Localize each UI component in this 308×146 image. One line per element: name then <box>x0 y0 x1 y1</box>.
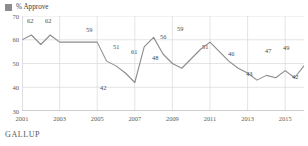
data-point-label: 51 <box>202 43 208 50</box>
x-axis-tick: 2013 <box>235 115 261 122</box>
gridlines <box>22 16 304 111</box>
plot-area <box>22 16 304 111</box>
data-point-label: 43 <box>246 70 252 77</box>
gallup-approval-chart: % Approve 7060504030 2001200320052007200… <box>0 0 308 146</box>
x-axis-tick: 2009 <box>159 115 185 122</box>
data-point-label: 61 <box>131 48 137 55</box>
x-axis-tick: 2011 <box>197 115 223 122</box>
legend-swatch-icon <box>5 4 12 11</box>
data-point-label: 48 <box>152 54 158 61</box>
y-axis-tick: 50 <box>3 60 19 67</box>
x-axis-tick: 2005 <box>84 115 110 122</box>
data-point-label: 49 <box>283 44 289 51</box>
x-axis-tick: 2007 <box>122 115 148 122</box>
y-axis-tick: 30 <box>3 108 19 115</box>
data-point-label: 59 <box>177 25 183 32</box>
data-point-label: 42 <box>100 84 106 91</box>
x-axis-tick: 2001 <box>9 115 35 122</box>
y-axis-tick: 40 <box>3 84 19 91</box>
data-point-label: 46 <box>228 50 234 57</box>
plot-svg <box>22 16 304 111</box>
data-point-label: 51 <box>113 43 119 50</box>
data-point-label: 56 <box>160 33 166 40</box>
gallup-brand-footer: GALLUP <box>5 130 40 139</box>
chart-legend: % Approve <box>5 2 49 12</box>
x-axis-tick: 2015 <box>272 115 298 122</box>
data-point-label: 62 <box>45 17 51 24</box>
y-axis-tick: 70 <box>3 13 19 20</box>
data-point-label: 59 <box>86 26 92 33</box>
legend-label: % Approve <box>16 3 49 11</box>
data-point-label: 62 <box>27 17 33 24</box>
data-point-label: 42 <box>292 73 298 80</box>
y-axis-tick: 60 <box>3 36 19 43</box>
data-point-label: 47 <box>265 47 271 54</box>
series-line-approve <box>22 35 304 83</box>
x-axis-tick: 2003 <box>47 115 73 122</box>
